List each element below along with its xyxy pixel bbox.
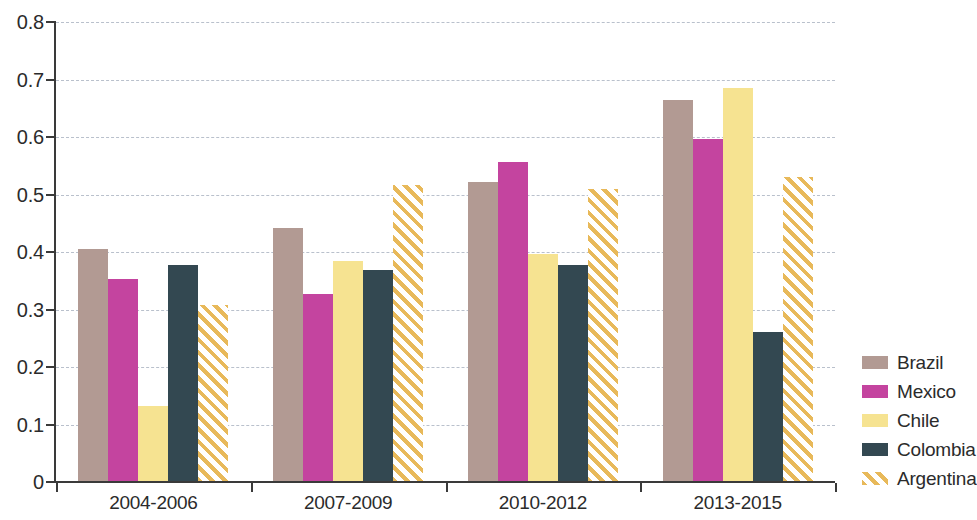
bar-argentina-2004-2006 (198, 305, 228, 482)
bar-colombia-2010-2012 (558, 265, 588, 482)
y-axis-tick-mark (46, 366, 56, 368)
y-axis-tick-label: 0.2 (0, 357, 44, 377)
y-axis-tick-label: 0.7 (0, 70, 44, 90)
x-axis-group-label-2007-2009: 2007-2009 (251, 492, 446, 514)
y-axis-tick-mark (46, 194, 56, 196)
x-axis-group-label-2010-2012: 2010-2012 (446, 492, 641, 514)
bar-colombia-2013-2015 (753, 332, 783, 482)
y-axis-tick-mark (46, 79, 56, 81)
bar-brazil-2010-2012 (468, 182, 498, 482)
y-axis-tick-mark (46, 21, 56, 23)
bar-mexico-2007-2009 (303, 294, 333, 482)
bar-argentina-2010-2012 (588, 189, 618, 482)
x-axis-tick-mark (835, 483, 837, 492)
x-axis-group-label-2004-2006: 2004-2006 (56, 492, 251, 514)
plot-area (56, 22, 835, 482)
y-axis-tick-label: 0.1 (0, 415, 44, 435)
x-axis-tick-mark (56, 483, 58, 492)
bar-chile-2010-2012 (528, 254, 558, 482)
legend-label-chile: Chile (897, 411, 939, 430)
legend-label-mexico: Mexico (897, 382, 956, 401)
y-axis-tick-label: 0 (0, 472, 44, 492)
bar-mexico-2010-2012 (498, 162, 528, 482)
y-axis-tick-mark (46, 136, 56, 138)
legend-item-mexico[interactable]: Mexico (862, 377, 977, 406)
bar-argentina-2007-2009 (393, 185, 423, 482)
x-axis-tick-mark (446, 483, 448, 492)
bar-argentina-2013-2015 (783, 177, 813, 482)
legend-item-brazil[interactable]: Brazil (862, 348, 977, 377)
legend-label-brazil: Brazil (897, 353, 943, 372)
bar-chile-2013-2015 (723, 88, 753, 482)
x-axis-line (54, 481, 835, 483)
bar-brazil-2013-2015 (663, 100, 693, 482)
y-axis-tick-label: 0.8 (0, 12, 44, 32)
y-axis-tick-label: 0.6 (0, 127, 44, 147)
legend-label-colombia: Colombia (897, 440, 976, 459)
legend-swatch-mexico-icon (862, 385, 888, 398)
legend-swatch-chile-icon (862, 414, 888, 427)
x-axis-group-label-2013-2015: 2013-2015 (640, 492, 835, 514)
y-axis-tick-mark (46, 251, 56, 253)
x-axis-tick-mark (640, 483, 642, 492)
legend-item-colombia[interactable]: Colombia (862, 435, 977, 464)
y-axis-tick-mark (46, 424, 56, 426)
bar-brazil-2004-2006 (78, 249, 108, 482)
bar-mexico-2004-2006 (108, 279, 138, 482)
x-axis-tick-mark (251, 483, 253, 492)
legend-label-argentina: Argentina (897, 469, 977, 488)
y-axis-tick-label: 0.3 (0, 300, 44, 320)
bar-brazil-2007-2009 (273, 228, 303, 482)
legend-swatch-brazil-icon (862, 356, 888, 369)
y-axis-tick-label: 0.5 (0, 185, 44, 205)
y-axis-tick-mark (46, 309, 56, 311)
bar-mexico-2013-2015 (693, 139, 723, 482)
bar-chile-2004-2006 (138, 406, 168, 482)
legend-swatch-colombia-icon (862, 443, 888, 456)
bar-chile-2007-2009 (333, 261, 363, 482)
bar-colombia-2004-2006 (168, 265, 198, 482)
y-axis-tick-label: 0.4 (0, 242, 44, 262)
bar-colombia-2007-2009 (363, 270, 393, 482)
legend-item-chile[interactable]: Chile (862, 406, 977, 435)
legend-swatch-argentina-icon (862, 472, 888, 485)
legend-item-argentina[interactable]: Argentina (862, 464, 977, 493)
chart-legend: BrazilMexicoChileColombiaArgentina (862, 348, 977, 493)
